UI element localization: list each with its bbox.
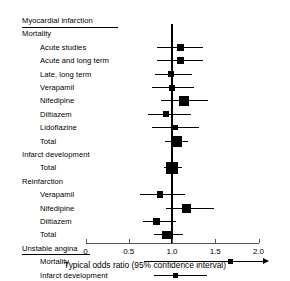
row-label-total: Total xyxy=(40,163,56,172)
row-label-verapamil: Verapamil xyxy=(40,190,74,199)
odds-ratio-marker-verapamil xyxy=(157,191,164,198)
row-label-nifedipine: Nifedipine xyxy=(40,204,74,213)
x-tick-1.5 xyxy=(215,239,216,243)
odds-ratio-marker-acute-studies xyxy=(177,44,184,51)
section-header-unstable-angina: Unstable angina xyxy=(22,244,78,253)
null-reference-line xyxy=(171,24,172,243)
row-label-diltiazem: Diltiazem xyxy=(40,217,72,226)
x-tick-label-0: 0 xyxy=(71,247,101,256)
forest-plot: Myocardial infarctionMortalityAcute stud… xyxy=(0,0,290,281)
odds-ratio-marker-acute-and-long-term xyxy=(177,57,184,64)
section-underline xyxy=(22,27,118,28)
odds-ratio-marker-diltiazem xyxy=(163,111,169,117)
odds-ratio-marker-nifedipine xyxy=(179,96,188,105)
section-header-myocardial-infarction: Myocardial infarction xyxy=(22,16,93,25)
x-tick-label-1.5: 1.5 xyxy=(200,247,230,256)
x-axis-line xyxy=(86,243,259,244)
confidence-interval-infarct-development xyxy=(154,275,207,276)
row-label-diltiazem: Diltiazem xyxy=(40,110,72,119)
x-tick-label-1.0: 1.0 xyxy=(157,247,187,256)
subsection-header-mortality: Mortality xyxy=(22,29,51,38)
x-tick-0 xyxy=(86,239,87,243)
x-tick-2.0 xyxy=(259,239,260,243)
row-label-lidoflazine: Lidoflazine xyxy=(40,123,77,132)
odds-ratio-marker-diltiazem xyxy=(153,218,161,226)
row-label-acute-and-long-term: Acute and long term xyxy=(40,56,109,65)
x-axis-title: Typical odds ratio (95% confidence inter… xyxy=(0,260,290,270)
row-label-verapamil: Verapamil xyxy=(40,83,74,92)
row-label-total: Total xyxy=(40,137,56,146)
confidence-interval-diltiazem xyxy=(148,114,191,115)
odds-ratio-marker-lidoflazine xyxy=(173,125,178,130)
row-label-late-long-term: Late, long term xyxy=(40,70,91,79)
x-tick-label-2.0: 2.0 xyxy=(244,247,274,256)
row-label-total: Total xyxy=(40,230,56,239)
x-tick-0.5 xyxy=(129,239,130,243)
x-tick-label-0.5: 0.5 xyxy=(114,247,144,256)
subsection-header-infarct-development: Infarct development xyxy=(22,150,90,159)
row-label-acute-studies: Acute studies xyxy=(40,43,86,52)
odds-ratio-marker-total xyxy=(162,231,171,240)
row-label-nifedipine: Nifedipine xyxy=(40,96,74,105)
odds-ratio-marker-infarct-development xyxy=(173,273,178,278)
subsection-header-reinfarction: Reinfarction xyxy=(22,177,63,186)
odds-ratio-marker-nifedipine xyxy=(182,204,191,213)
x-tick-1.0 xyxy=(172,239,173,243)
row-label-infarct-development: Infarct development xyxy=(40,271,108,280)
